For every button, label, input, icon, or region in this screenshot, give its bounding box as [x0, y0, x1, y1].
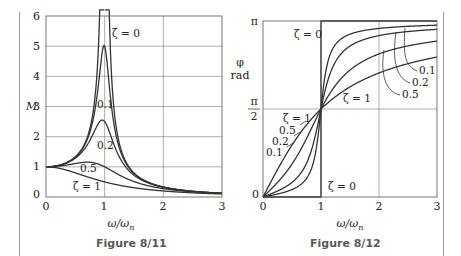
- right-leader-lines: [287, 28, 417, 147]
- xtick-2: 2: [376, 200, 383, 213]
- xtick-2: 2: [160, 200, 167, 213]
- chart-phase-angle: π π 2 0 0 1 2 3 φ rad ω/ωn ζ = 0 ζ = 0 ζ…: [231, 15, 441, 232]
- left-y-axis-label: M: [25, 100, 38, 113]
- ytick-4: 4: [33, 70, 40, 83]
- right-x-ticks: 0 1 2 3: [260, 200, 441, 213]
- ytick-pi: π: [251, 15, 258, 28]
- chart-magnification: 6 5 4 3 2 1 0 0 1 2 3 M ω/ωn ζ = 0 0.1 0…: [25, 10, 226, 232]
- ytick-2: 2: [33, 130, 40, 143]
- right-y-axis-label-rad: rad: [231, 69, 250, 82]
- xtick-3: 3: [434, 200, 441, 213]
- ytick-1: 1: [33, 160, 40, 173]
- label-zeta-1-upper: ζ = 1: [343, 92, 371, 104]
- right-y-axis-label-phi: φ: [236, 56, 244, 69]
- ytick-pi-half-num: π: [250, 95, 257, 108]
- left-grid: [46, 16, 222, 197]
- xtick-1: 1: [101, 200, 108, 213]
- curve-zeta-0: [46, 10, 104, 167]
- label-zeta-0.1-upper: 0.1: [419, 64, 436, 76]
- ytick-0: 0: [33, 188, 40, 201]
- label-zeta-0.5: 0.5: [80, 162, 97, 174]
- label-zeta-0.2: 0.2: [97, 139, 114, 151]
- ytick-6: 6: [33, 10, 40, 23]
- leader-line: [383, 50, 400, 95]
- xtick-0: 0: [43, 200, 50, 213]
- charts-canvas: 6 5 4 3 2 1 0 0 1 2 3 M ω/ωn ζ = 0 0.1 0…: [0, 0, 461, 256]
- label-zeta-0-upper: ζ = 0: [294, 28, 322, 40]
- label-zeta-1-lower: ζ = 1: [283, 112, 311, 124]
- figure-caption-8-11: Figure 8/11: [96, 237, 167, 250]
- xtick-1: 1: [318, 200, 325, 213]
- label-zeta-0.1: 0.1: [97, 98, 114, 110]
- curve-zeta-0.1: [46, 45, 222, 193]
- ytick-0: 0: [252, 188, 259, 201]
- xtick-3: 3: [219, 200, 226, 213]
- right-x-axis-label: ω/ωn: [337, 217, 364, 232]
- left-x-ticks: 0 1 2 3: [43, 200, 226, 213]
- ytick-5: 5: [33, 40, 40, 53]
- label-zeta-0: ζ = 0: [112, 27, 140, 39]
- label-zeta-1: ζ = 1: [73, 180, 101, 192]
- label-zeta-0.5-upper: 0.5: [402, 88, 419, 100]
- label-zeta-0.1-lower: 0.1: [266, 146, 283, 158]
- label-zeta-0-lower: ζ = 0: [328, 180, 356, 192]
- ytick-pi-half-den: 2: [251, 110, 258, 123]
- label-zeta-0.2-upper: 0.2: [412, 76, 429, 88]
- leader-line: [395, 32, 410, 83]
- xtick-0: 0: [260, 200, 267, 213]
- right-y-ticks: π π 2 0: [248, 15, 260, 201]
- right-grid: [263, 21, 437, 197]
- figure-caption-8-12: Figure 8/12: [310, 237, 381, 250]
- left-x-axis-label: ω/ωn: [108, 217, 135, 232]
